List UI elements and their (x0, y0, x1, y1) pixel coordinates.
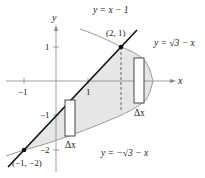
point-2-1 (119, 45, 124, 50)
x-tick-label--1: −1 (18, 87, 28, 97)
lower-curve-label: y = −√3 − x (100, 148, 149, 158)
y-axis-arrow-icon (54, 25, 58, 31)
y-tick-label--2: −2 (40, 145, 50, 155)
line-equation-label: y = x − 1 (92, 5, 129, 15)
y-tick-label-1: 1 (45, 42, 50, 52)
point-label-neg1-neg2: (−1, −2) (12, 158, 42, 168)
rectangle-left (65, 100, 75, 136)
rectangle-right (134, 58, 144, 103)
region-diagram: x y −1 1 1 −1 −2 y = x − 1 y = √3 − x y … (0, 0, 205, 178)
delta-x-label-right: Δx (134, 108, 145, 118)
x-axis-label: x (177, 75, 183, 86)
point-label-2-1: (2, 1) (106, 28, 126, 38)
upper-curve-label: y = √3 − x (153, 38, 196, 48)
x-tick-label-1: 1 (86, 87, 91, 97)
point-neg1-neg2 (22, 148, 27, 153)
y-axis-label: y (51, 12, 57, 23)
x-axis-arrow-icon (170, 79, 176, 83)
delta-x-label-left: Δx (65, 140, 76, 150)
y-tick-label--1: −1 (40, 110, 50, 120)
